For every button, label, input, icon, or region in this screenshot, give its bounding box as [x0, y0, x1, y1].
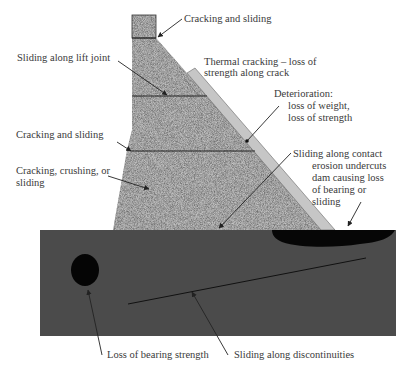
label-deterioration-line2: loss of weight, — [288, 100, 350, 113]
label-mid-cracking-sliding: Cracking and sliding — [16, 129, 104, 142]
label-thermal-cracking-line2: strength along crack — [204, 67, 289, 80]
label-loss-of-bearing: Loss of bearing strength — [107, 349, 209, 362]
label-discontinuities: Sliding along discontinuities — [234, 349, 354, 362]
label-erosion-line3: of bearing or — [312, 184, 366, 197]
label-sliding-contact: Sliding along contact — [293, 148, 382, 161]
label-lower-cracking-line1: Cracking, crushing, or — [16, 165, 110, 178]
label-lift-joint: Sliding along lift joint — [17, 52, 110, 65]
label-erosion-line2: dam causing loss — [312, 172, 384, 185]
label-crest-cracking: Cracking and sliding — [184, 13, 272, 26]
label-lower-cracking-line2: sliding — [16, 177, 45, 190]
label-erosion-line4: sliding — [312, 196, 341, 209]
label-deterioration-line1: Deterioration: — [274, 88, 333, 101]
label-deterioration-line3: loss of strength — [288, 112, 352, 125]
bearing-void — [71, 254, 99, 286]
label-erosion-line1: erosion undercuts — [312, 160, 386, 173]
